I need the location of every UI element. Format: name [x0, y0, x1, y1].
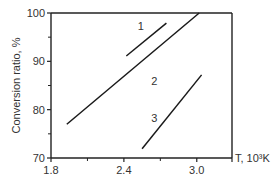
y-tick-label: 90 [33, 55, 45, 67]
x-tick-label: 2.4 [116, 164, 131, 176]
ticks: 7080901001.82.43.0 [27, 7, 232, 176]
y-tick-label: 70 [33, 152, 45, 164]
x-axis-title: T, 10³K [235, 152, 271, 164]
series-labels: 123 [138, 20, 157, 124]
x-tick-label: 3.0 [189, 164, 204, 176]
y-axis-title: Conversion ratio, % [10, 37, 22, 133]
y-tick-label: 100 [27, 7, 45, 19]
series-label-1: 1 [138, 20, 144, 32]
series-lines [67, 13, 202, 149]
axes [51, 13, 232, 158]
series-line-1 [126, 23, 166, 56]
series-label-2: 2 [151, 75, 157, 87]
series-line-2 [67, 13, 199, 124]
y-tick-label: 80 [33, 104, 45, 116]
x-tick-label: 1.8 [43, 164, 58, 176]
conversion-ratio-chart: 7080901001.82.43.0 123 T, 10³K Conversio… [0, 0, 278, 182]
series-label-3: 3 [151, 112, 157, 124]
